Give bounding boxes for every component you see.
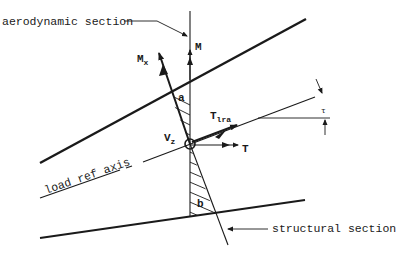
Vz-label: Vz: [164, 132, 176, 146]
Mx-label: Mx: [137, 53, 149, 67]
tau-label: τ: [321, 106, 326, 115]
Mx-arrowhead-2: [159, 64, 168, 76]
M-arrowhead-2: [187, 57, 193, 65]
M-label: M: [195, 41, 202, 53]
angle-a-hatch: [170, 95, 200, 140]
aerodynamic-section-label: aerodynamic section: [2, 15, 133, 28]
structural-section-label: structural section: [272, 222, 396, 235]
tau-top-leader: [316, 79, 322, 93]
structural-section-line: [40, 200, 305, 238]
T-label: T: [242, 143, 249, 155]
T-arrowhead-2: [222, 142, 230, 148]
Tlra-arrow: [192, 125, 237, 142]
aerodynamic-section-leader: [124, 21, 187, 36]
Tlra-label: Tlra: [210, 110, 231, 124]
angle-b-label: b: [197, 198, 204, 210]
section-load-diagram: aerodynamic section structural section l…: [0, 0, 406, 260]
load-ref-axis-label: load ref axis: [43, 155, 132, 197]
angle-a-label: a: [178, 92, 185, 104]
